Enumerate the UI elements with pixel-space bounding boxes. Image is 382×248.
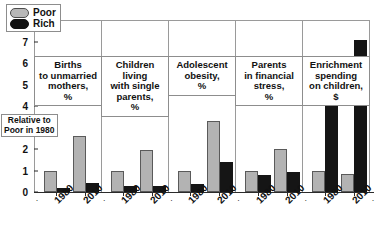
y-tick-label: 5 [22,79,28,90]
panel-separator-tick: · [36,195,39,205]
bar-poor-2010 [73,136,86,192]
y-tick-label: 0 [22,187,28,198]
panel-title: Parents in financial stress, % [235,56,303,106]
panel-separator-tick: · [372,195,375,205]
panel-separator-tick: · [103,195,106,205]
legend-label-rich: Rich [33,18,55,29]
y-axis-label: Relative to Poor in 1980 [1,114,58,137]
panel-title: Births to unmarried mothers, % [34,56,102,106]
bar-poor-2010 [207,121,220,192]
bar-poor-2010 [274,149,287,192]
faceted-bar-chart: 012345678 Births to unmarried mothers, %… [0,0,382,248]
chart-panel: Children living with single parents, % [101,20,168,192]
plot-area: Births to unmarried mothers, %Children l… [34,20,370,192]
bar-poor-1980 [178,171,191,193]
panel-separator-tick: · [304,195,307,205]
panel-title: Children living with single parents, % [101,56,169,117]
y-tick-mark [34,41,38,42]
x-axis-tick-labels: 19802010·19802010·19802010·19802010·1980… [34,192,370,248]
panel-bars [35,20,101,192]
legend-label-poor: Poor [33,7,56,18]
y-tick-label: 7 [22,36,28,47]
panel-bars [169,20,235,192]
y-tick-label: 6 [22,58,28,69]
legend-swatch-rich-icon [10,19,29,29]
chart-panel: Parents in financial stress, % [235,20,302,192]
legend-entry-rich: Rich [10,18,56,29]
y-tick-label: 2 [22,144,28,155]
chart-legend: Poor Rich [6,4,61,32]
bar-poor-1980 [245,171,258,193]
bar-poor-2010 [140,150,153,192]
legend-swatch-poor-icon [10,8,29,18]
y-tick-mark [34,192,38,193]
bar-rich-1980 [325,91,338,192]
panel-separator-tick: · [237,195,240,205]
y-tick-label: 4 [22,101,28,112]
chart-panel: Enrichment spending on children, $ [302,20,370,192]
panel-bars [236,20,302,192]
legend-entry-poor: Poor [10,7,56,18]
panel-title: Enrichment spending on children, $ [302,56,370,106]
panel-bars [303,20,369,192]
panel-separator-tick: · [170,195,173,205]
panel-title: Adolescent obesity, % [168,56,236,96]
bar-poor-1980 [44,171,57,193]
y-tick-mark [34,149,38,150]
bar-poor-1980 [111,171,124,193]
chart-panel: Births to unmarried mothers, % [34,20,101,192]
y-tick-label: 1 [22,165,28,176]
y-tick-mark [34,170,38,171]
chart-panel: Adolescent obesity, % [168,20,235,192]
panel-container: Births to unmarried mothers, %Children l… [34,20,370,192]
bar-poor-1980 [312,171,325,193]
